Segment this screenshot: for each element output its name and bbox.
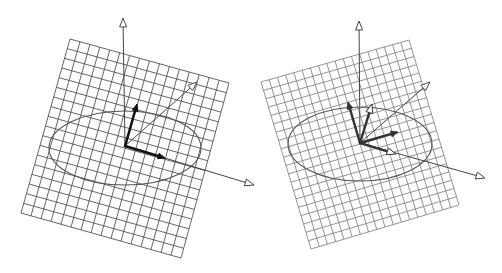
- left-axes: [120, 18, 254, 186]
- open-arrowhead-icon: [475, 172, 485, 179]
- open-arrowhead-icon: [356, 21, 363, 30]
- figure-canvas: [0, 0, 502, 273]
- filled-arrowhead-icon: [157, 153, 165, 158]
- open-arrowhead-icon: [386, 148, 396, 155]
- filled-arrowhead-icon: [347, 102, 352, 110]
- right-panel: [261, 21, 485, 249]
- filled-arrowhead-icon: [390, 131, 398, 136]
- left-vector-right: [125, 146, 165, 159]
- left-tilted-grid: [21, 39, 229, 258]
- open-arrowhead-icon: [244, 179, 254, 186]
- right-tilted-grid: [261, 40, 459, 249]
- open-arrowhead-icon: [120, 18, 127, 27]
- left-panel: [21, 18, 254, 258]
- dual-3d-coordinate-diagram: [0, 0, 502, 273]
- filled-arrowhead-icon: [132, 104, 137, 111]
